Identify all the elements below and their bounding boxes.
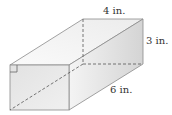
height-label: 3 in. [146, 35, 168, 46]
front-face [10, 65, 69, 110]
rectangular-prism-diagram: 4 in. 3 in. 6 in. [0, 0, 172, 115]
length-label: 6 in. [110, 84, 132, 95]
width-label: 4 in. [103, 5, 125, 16]
